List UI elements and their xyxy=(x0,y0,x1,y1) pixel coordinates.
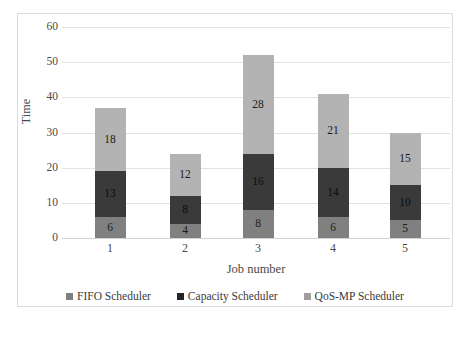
bar-group-4[interactable]: 21 14 6 xyxy=(318,94,349,238)
bar-value-capacity-4: 14 xyxy=(327,187,339,199)
legend-item-qos[interactable]: QoS-MP Scheduler xyxy=(304,290,404,302)
legend-item-capacity[interactable]: Capacity Scheduler xyxy=(177,290,278,302)
bar-segment-fifo-3[interactable]: 8 xyxy=(243,210,274,238)
y-tick-50: 50 xyxy=(18,56,58,68)
x-tick-1: 1 xyxy=(80,241,140,256)
bar-segment-qos-3[interactable]: 28 xyxy=(243,55,274,153)
bar-value-capacity-3: 16 xyxy=(252,176,264,188)
x-tick-3: 3 xyxy=(228,241,288,256)
bar-segment-fifo-2[interactable]: 4 xyxy=(170,224,201,238)
y-tick-0: 0 xyxy=(18,232,58,244)
bar-value-fifo-1: 6 xyxy=(107,222,113,234)
x-axis-title: Job number xyxy=(62,262,450,277)
x-axis-baseline xyxy=(62,238,450,239)
bar-segment-capacity-5[interactable]: 10 xyxy=(390,185,421,220)
y-axis-title: Time xyxy=(19,82,34,142)
plot-area: 18 13 6 12 8 4 28 xyxy=(62,27,450,238)
bar-value-qos-5: 15 xyxy=(399,153,411,165)
bar-value-capacity-2: 8 xyxy=(182,204,188,216)
bar-segment-qos-5[interactable]: 15 xyxy=(390,133,421,186)
bar-value-fifo-5: 5 xyxy=(402,223,408,235)
y-tick-60: 60 xyxy=(18,21,58,33)
figure: 60 50 40 30 20 10 0 Time 18 13 6 xyxy=(0,0,468,337)
bar-segment-qos-4[interactable]: 21 xyxy=(318,94,349,168)
gridline-60 xyxy=(62,27,450,28)
bar-segment-capacity-3[interactable]: 16 xyxy=(243,154,274,210)
y-tick-10: 10 xyxy=(18,197,58,209)
bar-group-3[interactable]: 28 16 8 xyxy=(243,55,274,238)
bar-segment-qos-2[interactable]: 12 xyxy=(170,154,201,196)
y-tick-20: 20 xyxy=(18,162,58,174)
legend-swatch-icon-fifo xyxy=(66,293,73,300)
bar-value-qos-3: 28 xyxy=(252,99,264,111)
legend-item-fifo[interactable]: FIFO Scheduler xyxy=(66,290,151,302)
figure-caption xyxy=(0,322,468,334)
bar-value-fifo-4: 6 xyxy=(330,222,336,234)
bar-value-fifo-3: 8 xyxy=(255,218,261,230)
bar-value-fifo-2: 4 xyxy=(182,225,188,237)
bar-segment-fifo-5[interactable]: 5 xyxy=(390,220,421,238)
bar-segment-fifo-1[interactable]: 6 xyxy=(95,217,126,238)
legend-swatch-icon-capacity xyxy=(177,293,184,300)
legend-label-fifo: FIFO Scheduler xyxy=(77,290,151,302)
bar-value-capacity-1: 13 xyxy=(104,188,116,200)
bar-group-2[interactable]: 12 8 4 xyxy=(170,154,201,238)
x-tick-4: 4 xyxy=(303,241,363,256)
bar-value-qos-2: 12 xyxy=(179,169,191,181)
bar-value-capacity-5: 10 xyxy=(399,197,411,209)
bar-segment-fifo-4[interactable]: 6 xyxy=(318,217,349,238)
bar-group-1[interactable]: 18 13 6 xyxy=(95,108,126,238)
bar-segment-capacity-1[interactable]: 13 xyxy=(95,171,126,217)
legend-swatch-icon-qos xyxy=(304,293,311,300)
bar-segment-capacity-2[interactable]: 8 xyxy=(170,196,201,224)
bar-value-qos-4: 21 xyxy=(327,125,339,137)
bar-segment-capacity-4[interactable]: 14 xyxy=(318,168,349,217)
x-tick-2: 2 xyxy=(155,241,215,256)
chart-legend: FIFO Scheduler Capacity Scheduler QoS-MP… xyxy=(17,286,453,306)
bar-value-qos-1: 18 xyxy=(104,134,116,146)
legend-label-capacity: Capacity Scheduler xyxy=(188,290,278,302)
bar-segment-qos-1[interactable]: 18 xyxy=(95,108,126,171)
bar-group-5[interactable]: 15 10 5 xyxy=(390,133,421,238)
x-tick-5: 5 xyxy=(375,241,435,256)
legend-label-qos: QoS-MP Scheduler xyxy=(315,290,404,302)
